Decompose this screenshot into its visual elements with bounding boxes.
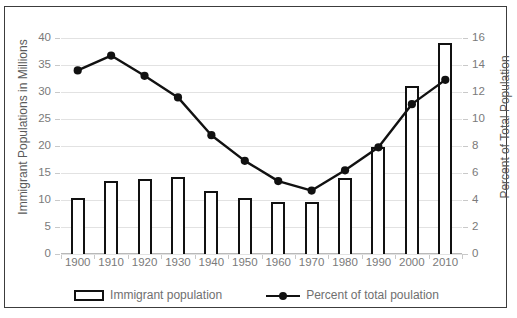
y-axis-right-tick-label: 14 [472, 59, 506, 71]
y-axis-right-tick-label: 6 [472, 167, 506, 179]
y-axis-left-tick [55, 92, 60, 93]
line-marker [441, 76, 449, 84]
y-axis-left-tick-label: 15 [17, 167, 51, 179]
y-axis-right-tick [463, 119, 468, 120]
plot-area [61, 38, 462, 254]
chart-frame: Immigrant Populations in Millions Percen… [4, 6, 507, 308]
y-axis-right-tick-label: 8 [472, 140, 506, 152]
line-marker [140, 72, 148, 80]
y-axis-right-tick-label: 2 [472, 221, 506, 233]
y-axis-left-tick-label: 10 [17, 194, 51, 206]
y-axis-right-tick [463, 38, 468, 39]
line-marker [107, 51, 115, 59]
y-axis-right-tick [463, 146, 468, 147]
legend-item-percent-of-total-population: Percent of total poulation [266, 289, 439, 301]
line-marker [174, 93, 182, 101]
y-axis-left-tick-label: 35 [17, 59, 51, 71]
line-path [78, 56, 446, 191]
y-axis-right-tick [463, 173, 468, 174]
legend-bar-swatch [74, 290, 104, 301]
legend-label-percent-of-total-population: Percent of total poulation [306, 289, 439, 301]
legend-label-immigrant-population: Immigrant population [110, 289, 222, 301]
gridline [61, 254, 462, 255]
y-axis-right-tick [463, 254, 468, 255]
y-axis-right-tick-label: 10 [472, 113, 506, 125]
y-axis-left-tick [55, 200, 60, 201]
y-axis-left-tick [55, 119, 60, 120]
line-marker [408, 100, 416, 108]
y-axis-left-tick [55, 254, 60, 255]
line-marker [207, 131, 215, 139]
legend-line-swatch [266, 290, 300, 301]
x-axis-tick-label: 2010 [425, 257, 465, 269]
y-axis-left-tick-label: 25 [17, 113, 51, 125]
chart-legend: Immigrant population Percent of total po… [5, 283, 508, 307]
y-axis-left-tick [55, 173, 60, 174]
line-marker [274, 177, 282, 185]
line-marker [74, 66, 82, 74]
y-axis-right-tick-label: 4 [472, 194, 506, 206]
y-axis-left-tick-label: 20 [17, 140, 51, 152]
line-series [61, 38, 462, 254]
y-axis-left-tick-label: 30 [17, 86, 51, 98]
y-axis-right-tick [463, 227, 468, 228]
line-marker [374, 143, 382, 151]
y-axis-left-tick [55, 227, 60, 228]
y-axis-right-tick [463, 92, 468, 93]
line-marker [308, 186, 316, 194]
y-axis-left-tick [55, 65, 60, 66]
y-axis-right-tick [463, 200, 468, 201]
y-axis-right-tick-label: 0 [472, 248, 506, 260]
y-axis-right-tick-label: 16 [472, 32, 506, 44]
line-marker [341, 166, 349, 174]
y-axis-left-tick [55, 146, 60, 147]
y-axis-right-tick [463, 65, 468, 66]
y-axis-left-tick-label: 5 [17, 221, 51, 233]
y-axis-right-tick-label: 12 [472, 86, 506, 98]
y-axis-left-tick [55, 38, 60, 39]
line-marker [241, 157, 249, 165]
x-axis-tick [462, 254, 463, 259]
y-axis-left-tick-label: 40 [17, 32, 51, 44]
legend-item-immigrant-population: Immigrant population [74, 289, 222, 301]
y-axis-left-tick-label: 0 [17, 248, 51, 260]
